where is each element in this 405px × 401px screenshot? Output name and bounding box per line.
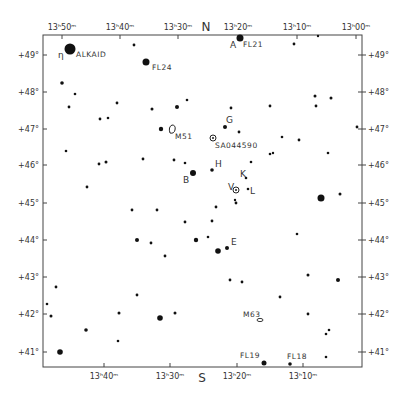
star-label: K — [240, 169, 247, 179]
stars — [46, 35, 359, 366]
star-label: η — [58, 50, 64, 60]
star-icon — [241, 281, 244, 284]
star-icon — [307, 274, 310, 277]
star-icon — [65, 150, 68, 153]
star-icon — [247, 188, 250, 191]
star-icon — [46, 303, 49, 306]
star-icon — [116, 102, 119, 105]
star-icon — [356, 126, 359, 129]
ra-label-top: 13ʰ50ᵐ — [48, 23, 77, 32]
star-icon — [318, 195, 325, 202]
deep-sky-objects — [169, 125, 263, 322]
star-icon — [215, 248, 221, 254]
dec-label-left: +43° — [18, 273, 39, 282]
star-icon — [314, 95, 317, 98]
star-icon — [328, 329, 331, 332]
dec-label-left: +48° — [18, 88, 39, 97]
ra-label-top: 13ʰ40ᵐ — [106, 23, 135, 32]
star-icon — [262, 361, 267, 366]
star-icon — [131, 209, 134, 212]
star-label: A — [230, 40, 237, 50]
star-icon — [288, 362, 292, 366]
axis-ticks — [43, 35, 366, 367]
ra-label-bottom: 13ʰ20ᵐ — [223, 372, 252, 381]
compass-north: N — [202, 20, 211, 34]
dec-label-left: +45° — [18, 199, 39, 208]
star-icon — [143, 59, 150, 66]
star-icon — [325, 356, 328, 359]
star-icon — [68, 106, 71, 109]
dec-label-right: +46° — [368, 161, 389, 170]
compass-south: S — [198, 371, 206, 385]
star-labels: ηALKAIDFL24AFL21M51SA044590GHBKVLEM63FL1… — [58, 40, 307, 361]
axis-tick-labels: 13ʰ50ᵐ13ʰ40ᵐ13ʰ30ᵐ13ʰ20ᵐ13ʰ10ᵐ13ʰ00ᵐ13ʰ4… — [18, 23, 389, 381]
star-icon — [184, 221, 187, 224]
star-icon — [223, 125, 227, 129]
dec-label-right: +44° — [368, 236, 389, 245]
dec-label-right: +45° — [368, 199, 389, 208]
star-icon — [225, 246, 229, 250]
dec-label-left: +47° — [18, 125, 39, 134]
star-icon — [65, 44, 76, 55]
ra-label-top: 13ʰ30ᵐ — [164, 23, 193, 32]
star-icon — [60, 81, 64, 85]
star-icon — [173, 159, 176, 162]
ra-label-top: 13ʰ00ᵐ — [342, 23, 371, 32]
star-icon — [293, 43, 296, 46]
star-icon — [235, 202, 238, 205]
star-icon — [84, 328, 88, 332]
dec-label-left: +46° — [18, 161, 39, 170]
star-label: ALKAID — [76, 50, 106, 59]
star-icon — [57, 349, 63, 355]
star-icon — [164, 255, 167, 258]
dec-label-right: +49° — [368, 51, 389, 60]
ra-label-bottom: 13ʰ40ᵐ — [90, 372, 119, 381]
star-icon — [151, 108, 154, 111]
dec-label-left: +41° — [18, 348, 39, 357]
dec-label-left: +49° — [18, 51, 39, 60]
star-label: E — [231, 237, 237, 247]
star-icon — [296, 233, 299, 236]
star-icon — [315, 105, 318, 108]
star-icon — [156, 209, 159, 212]
star-icon — [99, 118, 102, 121]
ra-label-top: 13ʰ20ᵐ — [224, 23, 253, 32]
star-icon — [234, 199, 236, 201]
star-label: SA044590 — [215, 141, 258, 150]
star-icon — [117, 340, 120, 343]
ra-label-bottom: 13ʰ30ᵐ — [156, 372, 185, 381]
star-icon — [269, 153, 272, 156]
star-label: FL21 — [243, 40, 263, 49]
star-label: M51 — [175, 132, 193, 141]
star-icon — [330, 97, 333, 100]
dec-label-right: +48° — [368, 88, 389, 97]
ra-label-bottom: 13ʰ10ᵐ — [289, 372, 318, 381]
star-icon — [159, 127, 163, 131]
star-icon — [135, 238, 139, 242]
star-icon — [107, 117, 110, 120]
star-icon — [336, 278, 340, 282]
star-icon — [133, 44, 136, 47]
star-icon — [281, 136, 284, 139]
star-icon — [317, 35, 319, 37]
star-label: H — [215, 159, 222, 169]
star-icon — [325, 333, 328, 336]
ra-label-top: 13ʰ10ᵐ — [283, 23, 312, 32]
variable-star-center-icon — [235, 189, 237, 191]
star-icon — [105, 161, 108, 164]
star-label: L — [250, 186, 256, 196]
star-icon — [229, 279, 232, 282]
star-label: V — [228, 182, 235, 192]
star-icon — [339, 193, 342, 196]
dec-label-right: +41° — [368, 348, 389, 357]
star-icon — [50, 315, 53, 318]
dec-label-right: +42° — [368, 310, 389, 319]
star-icon — [230, 107, 233, 110]
star-icon — [194, 238, 198, 242]
star-icon — [98, 163, 101, 166]
star-label: B — [183, 175, 190, 185]
star-label: M63 — [243, 310, 261, 319]
star-icon — [55, 286, 58, 289]
star-icon — [136, 294, 139, 297]
star-icon — [307, 313, 310, 316]
